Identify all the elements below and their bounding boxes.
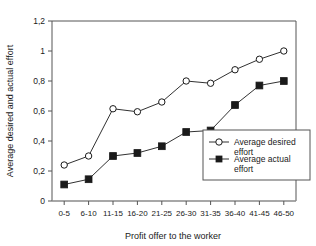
data-point-actual — [280, 78, 287, 85]
x-axis-title: Profit offer to the worker — [125, 231, 221, 241]
x-tick-label: 16-20 — [127, 209, 148, 218]
chart-container: 00,20,40,60,811,2 0-56-1011-1516-2021-25… — [0, 0, 316, 246]
data-point-actual — [232, 102, 239, 109]
data-point-actual — [110, 153, 117, 160]
legend-label-line2: effort — [234, 164, 254, 174]
data-point-desired — [159, 99, 165, 105]
data-point-desired — [134, 109, 140, 115]
data-point-desired — [61, 162, 67, 168]
y-tick-label: 1 — [40, 46, 45, 56]
y-tick-label: 0,4 — [33, 136, 45, 146]
y-tick-label: 0,2 — [33, 166, 45, 176]
data-point-desired — [207, 80, 213, 86]
legend-marker-open-circle-icon — [216, 139, 222, 145]
x-tick-label: 11-15 — [103, 209, 123, 218]
data-point-actual — [85, 176, 92, 183]
x-tick-label: 21-25 — [152, 209, 173, 218]
x-tick-label: 26-30 — [176, 209, 197, 218]
data-point-actual — [158, 143, 165, 150]
chart-legend: Average desiredeffortAverage actualeffor… — [203, 130, 310, 180]
data-point-desired — [183, 78, 189, 84]
data-point-desired — [85, 153, 91, 159]
y-tick-label: 0 — [40, 196, 45, 206]
data-point-desired — [110, 106, 116, 112]
effort-line-chart: 00,20,40,60,811,2 0-56-1011-1516-2021-25… — [0, 0, 316, 246]
y-tick-label: 1,2 — [33, 16, 45, 26]
data-point-desired — [281, 48, 287, 54]
x-tick-label: 6-10 — [81, 209, 98, 218]
x-tick-label: 0-5 — [58, 209, 70, 218]
data-point-actual — [183, 129, 190, 136]
data-point-desired — [232, 67, 238, 73]
y-axis-title: Average desired and actual effort — [5, 44, 15, 177]
legend-marker-filled-square-icon — [216, 156, 223, 163]
x-tick-label: 31-35 — [200, 209, 221, 218]
x-tick-label: 36-40 — [225, 209, 246, 218]
y-tick-label: 0,8 — [33, 76, 45, 86]
x-tick-label: 46-50 — [274, 209, 295, 218]
y-tick-label: 0,6 — [33, 106, 45, 116]
x-tick-label: 41-45 — [249, 209, 270, 218]
data-point-actual — [256, 82, 263, 89]
data-point-actual — [134, 150, 141, 157]
legend-label-line1: Average actual — [234, 154, 291, 164]
data-point-actual — [61, 181, 68, 188]
data-point-desired — [256, 56, 262, 62]
legend-label-line1: Average desired — [234, 137, 296, 147]
